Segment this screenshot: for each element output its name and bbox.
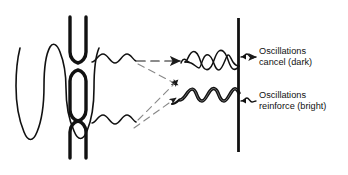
label-reinforce-line1: Oscillations <box>259 90 306 100</box>
label-cancel-line2: cancel (dark) <box>259 57 312 67</box>
label-cancel-line1: Oscillations <box>259 46 306 56</box>
diagram-canvas: Oscillations cancel (dark) Oscillations … <box>0 0 348 175</box>
lower-slit-wavelet <box>92 115 136 124</box>
constructive-interference-wave <box>172 89 239 104</box>
destructive-interference-wave <box>181 50 239 70</box>
label-cancel: Oscillations cancel (dark) <box>259 46 312 67</box>
upper-slit-wavelet <box>92 54 136 63</box>
ray-paths <box>134 61 180 128</box>
label-reinforce: Oscillations reinforce (bright) <box>259 90 326 111</box>
label-reinforce-line2: reinforce (bright) <box>259 101 326 111</box>
